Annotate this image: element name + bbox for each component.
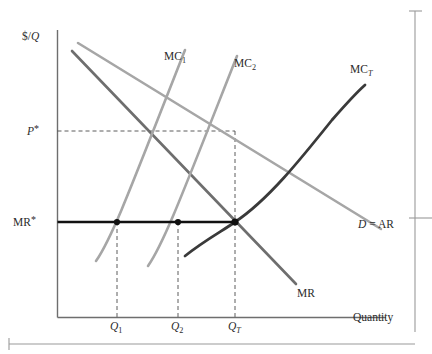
chart-canvas: $/Q Quantity P* MR* MC1 MC2 MCT MR D = A…	[0, 0, 432, 354]
curve-label-demand-ar: D = AR	[357, 218, 394, 230]
marker-qt	[231, 218, 238, 225]
curve-label-mr: MR	[297, 287, 315, 299]
x-tick-label-q2: Q2	[171, 320, 183, 335]
x-axis-label: Quantity	[353, 311, 393, 324]
y-axis-label: $/Q	[22, 30, 40, 42]
marker-q1	[114, 219, 120, 225]
p-star-label: P*	[26, 123, 39, 137]
curve-marginal-revenue	[72, 51, 296, 284]
mr-star-label: MR*	[13, 214, 36, 229]
curve-mc-2	[148, 56, 237, 266]
marker-q2	[175, 219, 181, 225]
axis-lines	[58, 30, 387, 318]
measurement-bracket-bottom	[9, 338, 415, 350]
curve-label-mc-2: MC2	[234, 57, 256, 72]
curve-demand-ar	[78, 43, 381, 229]
measurement-bracket-right	[409, 11, 432, 332]
x-tick-label-qt: QT	[228, 320, 242, 335]
curve-mc-total	[185, 85, 365, 256]
x-tick-label-q1: Q1	[110, 320, 122, 335]
economics-diagram: $/Q Quantity P* MR* MC1 MC2 MCT MR D = A…	[0, 0, 432, 354]
curve-label-mc-total: MCT	[350, 63, 374, 78]
curve-label-mc-1: MC1	[164, 50, 186, 65]
